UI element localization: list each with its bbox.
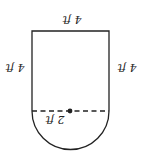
rectangle-outline bbox=[32, 31, 109, 111]
label-left: 4 ft bbox=[5, 61, 26, 74]
shape bbox=[32, 31, 109, 150]
label-top: 4 ft bbox=[62, 13, 83, 26]
label-radius: 2 ft bbox=[45, 113, 66, 126]
figure: 4 ft 4 ft 4 ft 2 ft bbox=[0, 0, 145, 161]
center-point bbox=[68, 109, 73, 114]
semicircle-arc bbox=[32, 111, 109, 150]
label-right: 4 ft bbox=[117, 61, 138, 74]
